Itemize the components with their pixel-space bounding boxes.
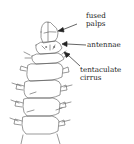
label-fused-palps-line2: palps [86,20,106,28]
label-antennae: antennae [87,41,121,49]
label-tentaculate-cirrus-line2: cirrus [80,74,121,82]
label-tentaculate-cirrus: tentaculate cirrus [80,66,121,81]
label-antennae-line1: antennae [87,41,121,49]
label-arrows [58,24,86,66]
label-fused-palps: fused palps [86,12,106,27]
worm-body [10,22,72,144]
